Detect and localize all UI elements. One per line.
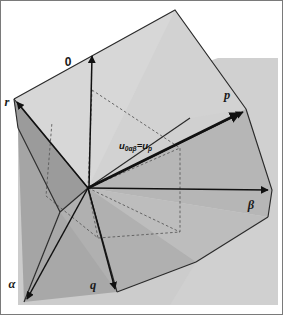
vector-label-subscript: 0αβ [125, 145, 137, 153]
axis-label-beta: β [247, 198, 255, 212]
vertex-label-r: r [5, 95, 10, 109]
vector-label-subscript2: p [147, 145, 152, 153]
vector-diagram-figure: 0 β α p r q u0αβ=up [0, 0, 283, 315]
diagram-canvas: 0 β α p r q u0αβ=up [0, 0, 283, 315]
axis-label-zero: 0 [65, 55, 72, 69]
axis-label-alpha: α [9, 277, 17, 291]
vertex-label-p: p [223, 88, 230, 102]
vertex-label-q: q [90, 278, 96, 292]
